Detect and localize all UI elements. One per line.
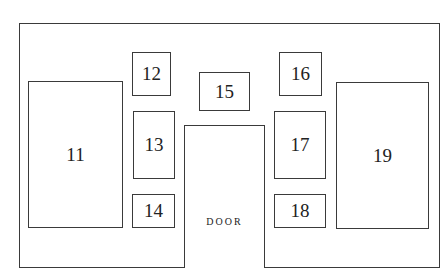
box-13: 13 xyxy=(133,111,175,179)
box-17: 17 xyxy=(274,111,326,179)
box-19: 19 xyxy=(336,82,429,229)
box-18: 18 xyxy=(274,194,326,228)
door: DOOR xyxy=(184,125,265,268)
box-16: 16 xyxy=(279,52,322,96)
box-15: 15 xyxy=(199,72,250,111)
box-12: 12 xyxy=(132,52,171,96)
box-14: 14 xyxy=(132,194,175,228)
door-label: DOOR xyxy=(185,216,264,227)
box-11: 11 xyxy=(28,81,123,228)
